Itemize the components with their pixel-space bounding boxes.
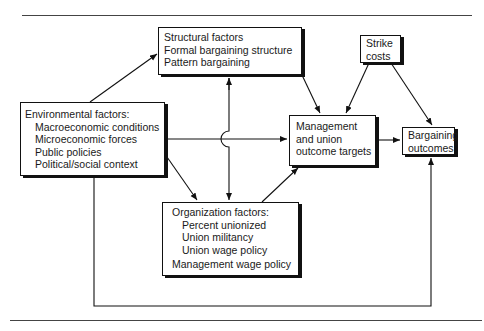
organization-factors-box: Organization factors: Percent unionized … <box>162 202 299 276</box>
targets-line: Management <box>296 120 369 133</box>
organization-title: Organization factors: <box>172 206 289 219</box>
structural-line: Structural factors <box>164 31 296 44</box>
bargaining-outcomes-box: Bargaining outcomes <box>402 127 455 155</box>
structural-line: Formal bargaining structure <box>164 44 296 57</box>
targets-line: and union <box>296 133 369 146</box>
environmental-title: Environmental factors: <box>25 108 160 121</box>
strike-costs-box: Strike costs <box>360 35 401 63</box>
edge-env-organization <box>167 157 197 200</box>
outcomes-line: Bargaining <box>408 129 449 142</box>
organization-item: Percent unionized <box>172 219 289 232</box>
outcome-targets-box: Management and union outcome targets <box>289 115 376 166</box>
organization-footer: Management wage policy <box>172 258 289 271</box>
strike-line: costs <box>366 50 395 63</box>
strike-line: Strike <box>366 37 395 50</box>
outcomes-line: outcomes <box>408 142 449 155</box>
edge-strike-targets <box>346 63 369 113</box>
organization-item: Union militancy <box>172 231 289 244</box>
environmental-factors-box: Environmental factors: Macroeconomic con… <box>20 102 165 176</box>
organization-item: Union wage policy <box>172 244 289 257</box>
structural-line: Pattern bargaining <box>164 56 296 69</box>
edge-structural-targets <box>302 75 320 113</box>
targets-line: outcome targets <box>296 145 369 158</box>
structural-factors-box: Structural factors Formal bargaining str… <box>158 27 302 75</box>
environmental-item: Public policies <box>25 146 160 159</box>
environmental-item: Macroeconomic conditions <box>25 121 160 134</box>
environmental-item: Microeconomic forces <box>25 133 160 146</box>
edge-organization-targets <box>262 168 298 202</box>
edge-strike-outcomes <box>391 63 432 125</box>
edge-env-structural <box>90 54 157 102</box>
environmental-item: Political/social context <box>25 158 160 171</box>
